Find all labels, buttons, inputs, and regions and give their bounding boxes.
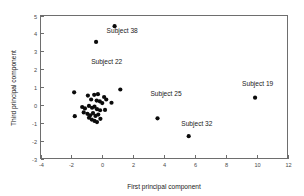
y-tick-label: -3 <box>32 157 37 163</box>
x-tick-label: 0 <box>101 162 104 168</box>
data-point <box>96 92 100 96</box>
y-axis-ticks: -3-2-1012345 <box>32 14 44 163</box>
point-annotation-label: Subject 25 <box>150 90 181 98</box>
data-point <box>94 40 98 44</box>
point-annotation-label: Subject 22 <box>91 58 122 66</box>
data-point <box>82 110 86 114</box>
y-tick-label: 3 <box>34 49 37 55</box>
scatter-plot-figure: -4-2024681012 -3-2-1012345 Subject 38Sub… <box>0 0 304 196</box>
data-point <box>86 93 90 97</box>
data-point <box>155 116 159 120</box>
y-tick-label: 4 <box>34 31 37 37</box>
data-point <box>118 87 122 91</box>
y-tick-label: 2 <box>34 67 37 73</box>
y-tick-label: -1 <box>32 121 37 127</box>
y-tick-label: 5 <box>34 14 37 20</box>
y-tick-label: 1 <box>34 85 37 91</box>
x-tick-label: 2 <box>132 162 135 168</box>
data-point <box>89 97 93 101</box>
x-axis-title: First principal component <box>127 183 201 191</box>
data-point <box>95 120 99 124</box>
x-tick-label: 6 <box>194 162 197 168</box>
x-tick-label: 4 <box>163 162 166 168</box>
data-point <box>73 114 77 118</box>
data-point <box>100 101 104 105</box>
data-point <box>109 101 113 105</box>
data-point <box>83 106 87 110</box>
point-annotation-label: Subject 38 <box>107 27 138 35</box>
y-tick-label: 0 <box>34 103 37 109</box>
x-tick-label: 12 <box>285 162 291 168</box>
data-point <box>187 134 191 138</box>
data-point <box>103 108 107 112</box>
data-point <box>87 116 91 120</box>
y-tick-label: -2 <box>32 139 37 145</box>
x-tick-label: -2 <box>69 162 74 168</box>
data-point-group <box>72 24 257 138</box>
data-point <box>98 117 102 121</box>
x-axis-ticks: -4-2024681012 <box>39 155 292 168</box>
x-tick-label: 8 <box>225 162 228 168</box>
plot-canvas: -4-2024681012 -3-2-1012345 Subject 38Sub… <box>0 0 304 196</box>
data-point <box>96 112 100 116</box>
annotation-group: Subject 38Subject 22Subject 19Subject 25… <box>91 27 273 128</box>
y-axis-title: Third principal component <box>10 50 18 126</box>
x-tick-label: 10 <box>254 162 260 168</box>
point-annotation-label: Subject 32 <box>181 120 212 128</box>
data-point <box>98 108 102 112</box>
x-tick-label: -4 <box>39 162 44 168</box>
point-annotation-label: Subject 19 <box>242 80 273 88</box>
data-point <box>92 93 96 97</box>
data-point <box>253 96 257 100</box>
data-point <box>72 90 76 94</box>
data-point <box>104 97 108 101</box>
